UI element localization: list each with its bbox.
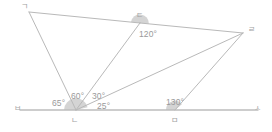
angle-label-n-25: 25° (97, 102, 110, 111)
angle-label-d-120: 120° (139, 30, 157, 39)
endpoint-label-b: ㅂ (14, 105, 21, 113)
vertex-label-n: ㄴ (71, 117, 78, 125)
vertex-label-d: ㄷ (136, 12, 143, 20)
angle-label-n-30: 30° (92, 92, 105, 101)
vertex-label-r: ㄹ (248, 26, 255, 34)
geometry-diagram: ㄱ ㄷ ㄹ ㄴ ㅁ ㅂ ㅅ 120° 65° 60° 30° 25° 130° (0, 0, 272, 132)
vertex-label-m: ㅁ (171, 117, 178, 125)
endpoint-label-s: ㅅ (254, 105, 261, 113)
angle-label-n-60: 60° (71, 92, 84, 101)
angle-label-n-65: 65° (52, 99, 65, 108)
angle-label-m-130: 130° (166, 98, 184, 107)
segment-r-m (175, 33, 243, 110)
segment-d-n (76, 23, 140, 110)
segment-g-n (29, 12, 76, 110)
segment-g-d (29, 12, 140, 23)
vertex-label-g: ㄱ (21, 3, 28, 11)
